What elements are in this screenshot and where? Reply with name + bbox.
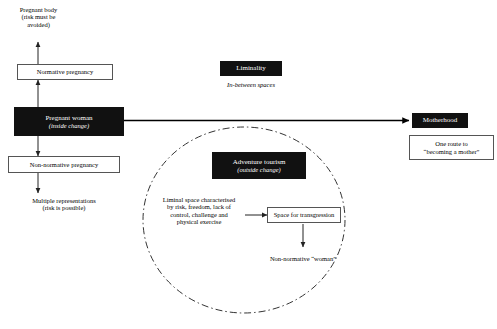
node-non-normative-woman: Non-normative “woman”: [250, 255, 356, 262]
node-motherhood-label: Motherhood: [423, 116, 458, 124]
node-in-between-spaces: In-between spaces: [213, 81, 289, 88]
node-pregnant-woman-sublabel: (inside change): [49, 122, 89, 129]
node-adventure-tourism-sublabel: (outside change): [237, 166, 281, 173]
node-motherhood: Motherhood: [412, 113, 468, 128]
conceptual-diagram: Pregnant body (risk must be avoided) Nor…: [0, 0, 497, 329]
node-one-route-to-becoming-a-mother: One route to “becoming a mother”: [409, 135, 494, 160]
node-pregnant-woman-label: Pregnant woman: [45, 114, 92, 122]
node-liminality: Liminality: [220, 61, 282, 76]
node-non-normative-pregnancy: Non-normative pregnancy: [8, 156, 120, 173]
node-liminality-label: Liminality: [236, 64, 266, 72]
node-multiple-representations: Multiple representations (risk is possib…: [0, 197, 128, 212]
node-adventure-tourism-label: Adventure tourism: [233, 158, 286, 166]
node-normative-pregnancy: Normative pregnancy: [17, 64, 113, 80]
node-adventure-tourism: Adventure tourism (outside change): [212, 152, 306, 179]
node-pregnant-body: Pregnant body (risk must be avoided): [0, 6, 77, 28]
node-space-for-transgression: Space for transgression: [267, 207, 341, 223]
node-pregnant-woman: Pregnant woman (inside change): [14, 107, 124, 136]
node-liminal-space-description: Liminal space characterised by risk, fre…: [152, 196, 246, 226]
